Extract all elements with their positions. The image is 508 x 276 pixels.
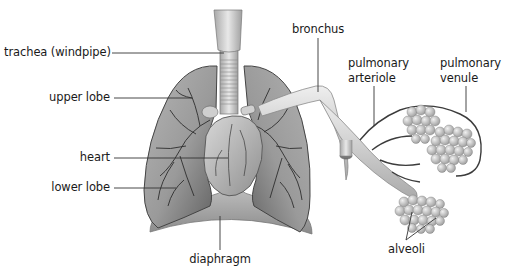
- label-diaphragm: diaphragm: [180, 253, 260, 266]
- label-heart: heart: [40, 151, 110, 164]
- label-lower-lobe: lower lobe: [20, 181, 110, 194]
- label-alveoli: alveoli: [388, 243, 425, 256]
- lungs-diagram: [0, 0, 508, 276]
- label-pulmonary-venule-2: venule: [440, 72, 478, 85]
- heart-shape: [204, 116, 262, 196]
- label-pulmonary-arteriole-2: arteriole: [348, 72, 396, 85]
- label-pulmonary-arteriole-1: pulmonary: [348, 57, 409, 70]
- label-upper-lobe: upper lobe: [20, 91, 110, 104]
- alveoli-cluster-bottom: [395, 195, 449, 234]
- aortic-arch-left: [202, 106, 218, 118]
- larynx: [214, 10, 242, 52]
- label-pulmonary-venule-1: pulmonary: [440, 57, 501, 70]
- label-trachea: trachea (windpipe): [4, 46, 108, 59]
- label-bronchus: bronchus: [292, 23, 344, 36]
